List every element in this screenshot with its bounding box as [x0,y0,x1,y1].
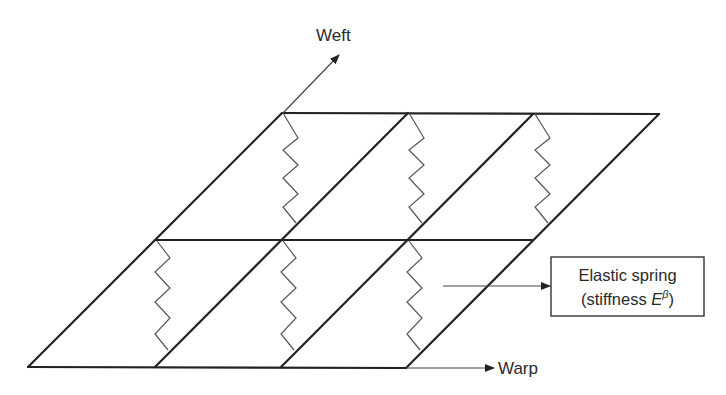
spring-icon [535,114,550,223]
spring-icon [407,241,422,350]
bottom-edge [28,367,406,368]
fabric-spring-diagram: Weft Warp Elastic spring (stiffness Eβ) [0,0,726,395]
weft-axis: Weft [283,26,351,113]
callout-suffix: ) [669,290,675,308]
spring-icon [409,113,424,223]
lattice-frame [28,113,659,368]
weft-label: Weft [316,26,351,45]
spring-icon [155,241,170,350]
spring-icon [281,241,296,350]
warp-axis: Warp [406,359,538,378]
callout-prefix: (stiffness [581,290,651,308]
spring-callout: Elastic spring (stiffness Eβ) [443,257,704,316]
top-edge [282,113,659,114]
callout-line-1: Elastic spring [578,266,676,284]
springs-top-row [283,113,550,223]
callout-line-2: (stiffness Eβ) [581,288,674,308]
warp-label: Warp [498,359,538,378]
spring-icon [283,113,298,223]
weft-arrow-icon [283,55,339,113]
springs-bottom-row [155,241,422,350]
